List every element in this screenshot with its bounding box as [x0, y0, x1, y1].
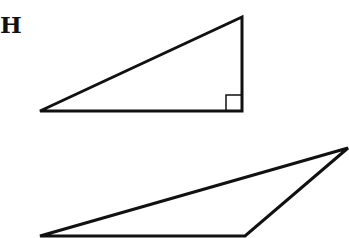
- right-angle-marker: [226, 95, 242, 111]
- triangles-figure: [0, 0, 349, 238]
- obtuse-triangle: [40, 148, 348, 236]
- right-triangle: [40, 17, 242, 111]
